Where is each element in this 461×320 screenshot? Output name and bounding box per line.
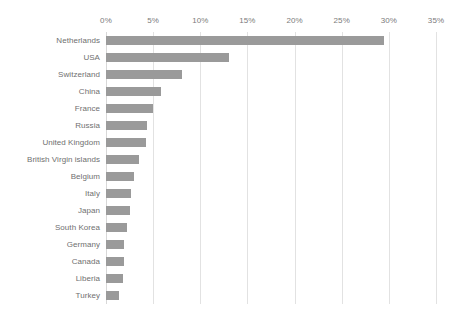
bar[interactable]: [106, 172, 134, 181]
bar[interactable]: [106, 36, 384, 45]
x-tick-label: 0%: [100, 16, 112, 25]
bar-row[interactable]: British Virgin islands: [0, 152, 461, 168]
bar-row[interactable]: Liberia: [0, 271, 461, 287]
x-tick-label: 5%: [147, 16, 159, 25]
category-label: Canada: [0, 254, 100, 270]
bar-row[interactable]: France: [0, 101, 461, 117]
bar-row[interactable]: China: [0, 84, 461, 100]
bar[interactable]: [106, 189, 131, 198]
category-label: China: [0, 84, 100, 100]
bar-row[interactable]: Italy: [0, 186, 461, 202]
category-label: France: [0, 101, 100, 117]
bar-row[interactable]: Netherlands: [0, 33, 461, 49]
category-label: Turkey: [0, 288, 100, 304]
category-label: Switzerland: [0, 67, 100, 83]
x-tick-label: 30%: [381, 16, 397, 25]
x-tick-label: 35%: [428, 16, 444, 25]
bar[interactable]: [106, 291, 119, 300]
bar-row[interactable]: Turkey: [0, 288, 461, 304]
bar-row[interactable]: Switzerland: [0, 67, 461, 83]
category-label: South Korea: [0, 220, 100, 236]
category-label: Italy: [0, 186, 100, 202]
bar[interactable]: [106, 223, 127, 232]
bar-row[interactable]: South Korea: [0, 220, 461, 236]
category-label: Netherlands: [0, 33, 100, 49]
bar-row[interactable]: Japan: [0, 203, 461, 219]
bar-row[interactable]: USA: [0, 50, 461, 66]
category-label: Germany: [0, 237, 100, 253]
bar[interactable]: [106, 138, 146, 147]
bar[interactable]: [106, 206, 130, 215]
bar-row[interactable]: Germany: [0, 237, 461, 253]
category-label: British Virgin islands: [0, 152, 100, 168]
bar-row[interactable]: United Kingdom: [0, 135, 461, 151]
category-label: Belgium: [0, 169, 100, 185]
x-axis-tick-labels: 0%5%10%15%20%25%30%35%: [0, 16, 461, 30]
category-label: Russia: [0, 118, 100, 134]
bar-rows: NetherlandsUSASwitzerlandChinaFranceRuss…: [0, 32, 461, 304]
bar[interactable]: [106, 70, 182, 79]
category-label: Liberia: [0, 271, 100, 287]
x-tick-label: 15%: [239, 16, 255, 25]
bar[interactable]: [106, 53, 229, 62]
category-label: United Kingdom: [0, 135, 100, 151]
bar[interactable]: [106, 240, 124, 249]
bar-row[interactable]: Belgium: [0, 169, 461, 185]
bar[interactable]: [106, 121, 147, 130]
bar[interactable]: [106, 104, 153, 113]
bar-row[interactable]: Canada: [0, 254, 461, 270]
x-tick-label: 20%: [286, 16, 302, 25]
x-tick-label: 10%: [192, 16, 208, 25]
bar-chart: 0%5%10%15%20%25%30%35% NetherlandsUSASwi…: [0, 0, 461, 320]
category-label: USA: [0, 50, 100, 66]
bar[interactable]: [106, 257, 124, 266]
bar[interactable]: [106, 87, 161, 96]
category-label: Japan: [0, 203, 100, 219]
bar[interactable]: [106, 155, 139, 164]
x-tick-label: 25%: [334, 16, 350, 25]
bar-row[interactable]: Russia: [0, 118, 461, 134]
bar[interactable]: [106, 274, 123, 283]
